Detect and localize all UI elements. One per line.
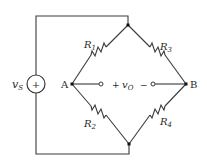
source-polarity-plus: + (32, 79, 40, 90)
resistor-r4 (129, 84, 186, 144)
voltage-source: + (27, 75, 45, 93)
resistor-r1 (72, 25, 128, 84)
resistor-r3 (128, 25, 186, 84)
bottom-node-dot-icon (128, 143, 131, 146)
r1-label: R1 (83, 39, 96, 52)
output-label: vO (122, 79, 134, 92)
node-a-dot-icon (71, 83, 74, 86)
output-terminal-right-icon (151, 82, 155, 86)
wheatstone-bridge-diagram: + vS R1 R3 R2 R4 + vO − A B (0, 0, 207, 165)
node-b-dot-icon (185, 83, 188, 86)
r3-label: R3 (159, 41, 173, 54)
node-b-label: B (190, 79, 197, 90)
top-node-dot-icon (127, 24, 130, 27)
output-plus-sign: + (112, 80, 120, 90)
resistor-r2 (72, 84, 129, 144)
r4-label: R4 (159, 116, 172, 129)
top-wire (36, 16, 128, 75)
bottom-wire (36, 93, 129, 154)
output-terminal-left-icon (99, 82, 103, 86)
r2-label: R2 (83, 118, 97, 131)
node-a-label: A (60, 79, 69, 90)
output-minus-sign: − (140, 80, 148, 90)
source-label: vS (12, 78, 23, 92)
